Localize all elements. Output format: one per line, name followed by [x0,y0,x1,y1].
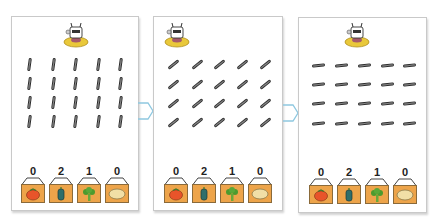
potato-icon [105,184,129,203]
bin-count: 0 [309,167,333,178]
stick-icon [167,59,179,70]
pepper-icon [49,184,73,203]
broccoli-icon [220,184,244,203]
tomato-icon [164,184,188,203]
stick-icon [357,63,370,67]
stick-icon [96,57,101,70]
broccoli-icon [77,184,101,203]
arrow-right-icon [137,97,154,125]
stick-icon [380,121,393,125]
bin-count: 0 [248,166,272,177]
stick-icon [118,114,123,127]
stick-icon [236,59,248,70]
bin-count: 0 [393,167,417,178]
broccoli-icon [365,185,389,204]
stick-icon [402,82,415,86]
stick-icon [191,117,203,128]
stick-icon [167,79,179,90]
stick-icon [402,121,415,125]
stick-icon [51,95,56,108]
stick-icon [311,63,324,67]
bin-count: 2 [192,166,216,177]
panel-3: 0 2 1 0 [298,17,427,213]
stick-icon [259,59,271,70]
stick-icon [236,98,248,109]
tomato-icon [309,185,333,204]
bin-count: 2 [337,167,361,178]
potato-icon [393,185,417,204]
stick-icon [380,82,393,86]
stick-icon [259,98,271,109]
bin-count: 0 [105,166,129,177]
bin-count: 2 [49,166,73,177]
stick-icon [167,98,179,109]
mascot-icon [162,19,192,49]
mascot-icon [61,19,91,49]
panel-2: 0 2 1 0 [153,16,283,211]
stick-icon [213,59,225,70]
stick-icon [51,57,56,70]
stick-icon [357,82,370,86]
bin-count: 1 [77,166,101,177]
stick-icon [118,95,123,108]
stick-icon [402,101,415,105]
stick-icon [334,63,347,67]
stick-icon [213,79,225,90]
stick-icon [402,63,415,67]
stick-icon [311,121,324,125]
stick-icon [27,76,32,89]
stick-icon [167,117,179,128]
stick-icon [259,117,271,128]
stick-icon [96,114,101,127]
bin-count: 0 [164,166,188,177]
bin-count: 1 [365,167,389,178]
stick-icon [334,101,347,105]
tomato-icon [21,184,45,203]
stick-icon [334,82,347,86]
pepper-icon [337,185,361,204]
stick-icon [380,63,393,67]
stick-icon [357,121,370,125]
stick-icon [73,95,78,108]
stick-icon [357,101,370,105]
stick-icon [27,95,32,108]
mascot-icon [342,19,372,49]
stick-icon [118,57,123,70]
stick-icon [380,101,393,105]
bin-count: 1 [220,166,244,177]
stick-icon [51,114,56,127]
stick-icon [73,76,78,89]
stick-icon [311,101,324,105]
stick-icon [213,117,225,128]
potato-icon [248,184,272,203]
stick-icon [27,114,32,127]
stick-icon [27,57,32,70]
arrow-right-icon [282,99,299,127]
stick-icon [51,76,56,89]
bin-count: 0 [21,166,45,177]
stick-icon [259,79,271,90]
stick-icon [213,98,225,109]
stick-icon [191,79,203,90]
stick-icon [73,114,78,127]
stick-icon [73,57,78,70]
stick-icon [191,59,203,70]
stick-icon [118,76,123,89]
stick-icon [236,117,248,128]
stick-icon [236,79,248,90]
stick-icon [96,76,101,89]
stick-icon [96,95,101,108]
pepper-icon [192,184,216,203]
panel-1: 0 2 1 0 [11,16,139,211]
stick-icon [334,121,347,125]
stick-icon [311,82,324,86]
stick-icon [191,98,203,109]
